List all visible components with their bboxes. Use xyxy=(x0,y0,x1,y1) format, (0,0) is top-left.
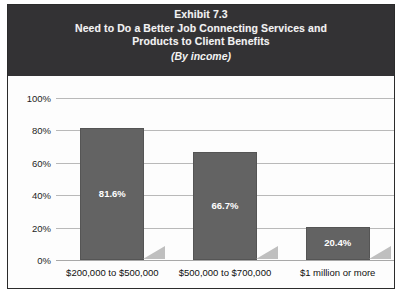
y-axis-label: 20% xyxy=(32,222,51,233)
x-axis-label: $200,000 to $500,000 xyxy=(66,267,158,278)
bar[interactable]: 66.7% xyxy=(193,152,257,260)
plot-area: 0%20%40%60%80%100% 81.6%$200,000 to $500… xyxy=(56,98,394,260)
y-axis-label: 80% xyxy=(32,125,51,136)
y-axis-label: 60% xyxy=(32,157,51,168)
y-axis-label: 0% xyxy=(37,255,51,266)
bar-value-label: 20.4% xyxy=(307,237,369,248)
x-axis-label: $1 million or more xyxy=(300,267,376,278)
x-axis-label: $500,000 to $700,000 xyxy=(179,267,271,278)
title-line-2: Need to Do a Better Job Connecting Servi… xyxy=(8,22,394,36)
bar-shadow xyxy=(369,246,391,259)
gridline-0 xyxy=(56,260,394,261)
bar-value-label: 81.6% xyxy=(81,188,143,199)
bar-value-label: 66.7% xyxy=(194,200,256,211)
bar-slot: 66.7%$500,000 to $700,000 xyxy=(169,98,282,260)
bar[interactable]: 20.4% xyxy=(306,227,370,260)
title-line-3: Products to Client Benefits xyxy=(8,35,394,49)
chart-subtitle: (By income) xyxy=(8,49,394,63)
exhibit-panel: Exhibit 7.3 Need to Do a Better Job Conn… xyxy=(7,4,395,289)
bar-shadow xyxy=(256,246,278,259)
bar[interactable]: 81.6% xyxy=(80,128,144,260)
title-line-1: Exhibit 7.3 xyxy=(8,8,394,22)
chart-title-header: Exhibit 7.3 Need to Do a Better Job Conn… xyxy=(8,5,394,76)
bar-shadow xyxy=(143,246,165,259)
bar-slot: 20.4%$1 million or more xyxy=(281,98,394,260)
chart-panel: 0%20%40%60%80%100% 81.6%$200,000 to $500… xyxy=(8,76,394,288)
bar-slot: 81.6%$200,000 to $500,000 xyxy=(56,98,169,260)
y-axis-label: 100% xyxy=(27,93,51,104)
y-axis-label: 40% xyxy=(32,190,51,201)
